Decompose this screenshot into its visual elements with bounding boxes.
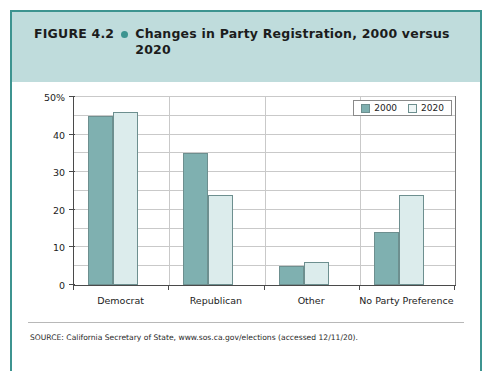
x-axis bbox=[73, 285, 456, 286]
legend-item-2020: 2020 bbox=[408, 103, 444, 113]
y-axis-tick-label: 0 bbox=[59, 280, 65, 291]
bullet-dot-icon bbox=[121, 31, 128, 38]
y-axis-tick-label: 20 bbox=[53, 204, 65, 215]
legend-label: 2000 bbox=[374, 103, 397, 113]
x-axis-tick-label: Republican bbox=[190, 295, 242, 306]
figure-header: FIGURE 4.2 Changes in Party Registration… bbox=[12, 12, 480, 82]
source-note: SOURCE: California Secretary of State, w… bbox=[30, 332, 464, 343]
page-title: Changes in Party Registration, 2000 vers… bbox=[135, 26, 465, 58]
bar-chart: 01020304050% 2000 2020 DemocratRepublica… bbox=[36, 96, 456, 312]
bar-2020-democrat bbox=[113, 112, 138, 285]
x-axis-tick bbox=[168, 285, 169, 290]
x-axis-tick-label: No Party Preference bbox=[359, 295, 453, 306]
x-axis-tick-label: Other bbox=[298, 295, 325, 306]
bar-2020-other bbox=[304, 262, 329, 285]
category-separator bbox=[360, 97, 361, 285]
y-axis-tick bbox=[69, 209, 75, 210]
legend-label: 2020 bbox=[421, 103, 444, 113]
figure-body: 01020304050% 2000 2020 DemocratRepublica… bbox=[12, 82, 480, 371]
bar-2000-republican bbox=[183, 153, 208, 285]
category-separator bbox=[169, 97, 170, 285]
x-axis-tick bbox=[359, 285, 360, 290]
y-axis-tick-label: 10 bbox=[53, 242, 65, 253]
legend-swatch-icon bbox=[361, 104, 370, 113]
figure-card: FIGURE 4.2 Changes in Party Registration… bbox=[10, 10, 482, 371]
y-axis-tick bbox=[69, 246, 75, 247]
figure-title-line: FIGURE 4.2 Changes in Party Registration… bbox=[34, 26, 480, 58]
figure-label: FIGURE 4.2 bbox=[34, 26, 114, 42]
chart-legend: 2000 2020 bbox=[353, 100, 452, 116]
y-axis-tick bbox=[69, 96, 75, 97]
x-axis-tick-label: Democrat bbox=[97, 295, 144, 306]
y-axis bbox=[73, 96, 74, 286]
y-axis-tick-label: 40 bbox=[53, 129, 65, 140]
bar-2000-no-party-preference bbox=[374, 232, 399, 285]
legend-swatch-icon bbox=[408, 104, 417, 113]
y-axis-tick-label: 30 bbox=[53, 167, 65, 178]
y-axis-tick-label: 50% bbox=[44, 92, 65, 103]
y-axis-tick bbox=[69, 171, 75, 172]
bar-2000-other bbox=[279, 266, 304, 285]
x-axis-tick bbox=[264, 285, 265, 290]
source-divider bbox=[28, 322, 464, 323]
bar-2020-republican bbox=[208, 195, 233, 285]
bar-2020-no-party-preference bbox=[399, 195, 424, 285]
x-axis-tick bbox=[454, 285, 455, 290]
y-axis-tick bbox=[69, 134, 75, 135]
plot-area: 01020304050% bbox=[73, 96, 456, 286]
x-axis-tick bbox=[73, 285, 74, 290]
legend-item-2000: 2000 bbox=[361, 103, 397, 113]
bar-2000-democrat bbox=[88, 116, 113, 285]
category-separator bbox=[265, 97, 266, 285]
